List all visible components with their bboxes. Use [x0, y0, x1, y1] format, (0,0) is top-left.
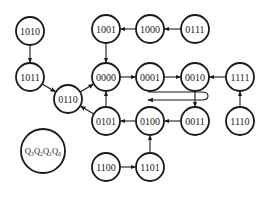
state-node-1001: 1001 — [92, 15, 120, 43]
state-label: 0101 — [96, 116, 116, 127]
state-label: 1011 — [20, 72, 40, 83]
state-node-0000: 0000 — [92, 63, 120, 91]
state-node-1010: 1010 — [16, 17, 44, 45]
state-label: 0011 — [185, 116, 205, 127]
state-node-1101: 1101 — [136, 153, 164, 181]
state-diagram: 1010100110000111101100000001001011110110… — [0, 0, 267, 197]
state-label: 0111 — [185, 24, 204, 35]
state-node-1110: 1110 — [226, 107, 254, 135]
state-node-0011: 0011 — [181, 107, 209, 135]
edge-0110-to-0000 — [80, 84, 93, 92]
state-label: 1001 — [96, 24, 116, 35]
state-node-0101: 0101 — [92, 107, 120, 135]
state-label: 0000 — [96, 72, 116, 83]
state-node-0110: 0110 — [54, 85, 82, 113]
state-node-1011: 1011 — [16, 63, 44, 91]
state-node-0010: 0010 — [181, 63, 209, 91]
state-node-1100: 1100 — [92, 153, 120, 181]
state-label: 1010 — [20, 26, 40, 37]
state-node-1111: 1111 — [226, 63, 254, 91]
state-label: 1111 — [231, 72, 250, 83]
legend-node: Q₃Q₂Q₁Q₀ — [21, 129, 65, 173]
state-label: 1100 — [96, 162, 116, 173]
state-node-1000: 1000 — [136, 15, 164, 43]
state-label: 1110 — [230, 116, 249, 127]
edge-1011-to-0110 — [42, 84, 55, 92]
legend-label: Q₃Q₂Q₁Q₀ — [25, 146, 61, 156]
state-label: 0001 — [140, 72, 160, 83]
state-label: 1101 — [140, 162, 160, 173]
state-label: 0100 — [140, 116, 160, 127]
state-node-0100: 0100 — [136, 107, 164, 135]
cycle-direction-arrow — [148, 92, 208, 100]
edge-0101-to-0110 — [81, 106, 94, 114]
state-label: 0010 — [185, 72, 205, 83]
state-node-0001: 0001 — [136, 63, 164, 91]
state-node-0111: 0111 — [181, 15, 209, 43]
state-label: 1000 — [140, 24, 160, 35]
state-label: 0110 — [58, 94, 78, 105]
